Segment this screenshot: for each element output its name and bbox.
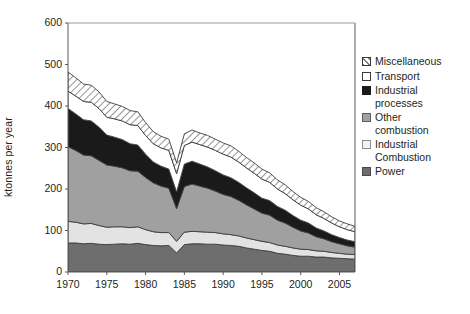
x-tick-label: 1970: [46, 278, 90, 290]
chart-figure: ktonnes per year 0100200300400500600 197…: [0, 0, 470, 314]
legend-item-label: Other combustion: [375, 111, 429, 136]
legend-item[interactable]: Industrial processes: [362, 84, 468, 109]
legend-swatch-icon: [362, 167, 371, 176]
x-tick-label: 2000: [279, 278, 323, 290]
legend-swatch-icon: [362, 86, 371, 95]
legend-swatch-icon: [362, 72, 371, 81]
chart-legend: MiscellaneousTransportIndustrial process…: [362, 55, 468, 180]
legend-item-label: Industrial Combustion: [375, 138, 431, 163]
legend-swatch-icon: [362, 140, 371, 149]
x-tick-label: 1995: [240, 278, 284, 290]
legend-item-label: Miscellaneous: [375, 55, 442, 68]
legend-item[interactable]: Miscellaneous: [362, 55, 468, 68]
legend-swatch-icon: [362, 57, 371, 66]
x-tick-label: 1985: [162, 278, 206, 290]
legend-item[interactable]: Industrial Combustion: [362, 138, 468, 163]
x-tick-label: 1975: [85, 278, 129, 290]
legend-item[interactable]: Power: [362, 165, 468, 178]
x-tick-label: 1980: [124, 278, 168, 290]
legend-item-label: Power: [375, 165, 405, 178]
x-tick-label: 1990: [201, 278, 245, 290]
legend-item[interactable]: Transport: [362, 70, 468, 83]
legend-item-label: Industrial processes: [375, 84, 423, 109]
x-tick-label: 2005: [317, 278, 361, 290]
legend-item-label: Transport: [375, 70, 420, 83]
legend-swatch-icon: [362, 113, 371, 122]
legend-item[interactable]: Other combustion: [362, 111, 468, 136]
